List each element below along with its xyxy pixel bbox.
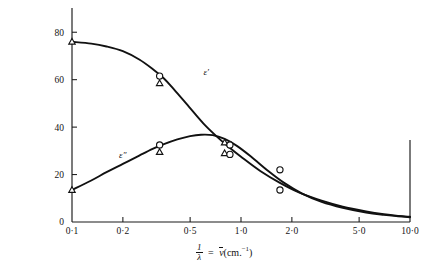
data-point-triangle: [156, 80, 162, 86]
x-tick-label: 1·0: [235, 226, 248, 236]
x-tick-label: 0·2: [117, 226, 130, 236]
curve-labels: ε′ε″: [119, 67, 210, 160]
y-tick-label: 0: [59, 217, 64, 227]
nu-glyph: ν: [219, 247, 223, 258]
y-tick-label: 40: [55, 123, 65, 133]
data-point-circle: [157, 142, 163, 148]
data-point-circle: [157, 73, 163, 79]
x-axis-ticks: 0·10·20·51·02·05·010·0: [66, 217, 419, 236]
data-point-triangle: [156, 149, 162, 155]
data-markers-epsilon-double-prime: [69, 142, 283, 193]
dielectric-dispersion-figure: 0·10·20·51·02·05·010·0 020406080 ε′ε″ 1 …: [0, 0, 439, 273]
nu-bar-symbol: ν: [219, 248, 223, 258]
curve-label-epsilon-prime: ε′: [204, 67, 211, 77]
x-tick-label: 10·0: [401, 226, 419, 236]
fraction-numerator: 1: [196, 243, 203, 252]
x-tick-label: 0·5: [184, 226, 197, 236]
x-tick-label: 5·0: [353, 226, 366, 236]
units-close: ): [249, 248, 252, 258]
curve-epsilon-double-prime: [72, 135, 410, 218]
x-tick-label: 2·0: [286, 226, 299, 236]
data-point-circle: [277, 187, 283, 193]
y-tick-label: 60: [55, 75, 65, 85]
curve-epsilon-prime: [72, 42, 410, 217]
data-point-triangle: [69, 187, 75, 193]
curve-label-epsilon-double-prime: ε″: [119, 150, 127, 160]
equals-sign: =: [208, 248, 214, 258]
overbar: [219, 247, 222, 248]
data-markers-epsilon-prime: [69, 38, 283, 172]
y-tick-label: 20: [55, 170, 65, 180]
x-tick-label: 0·1: [66, 226, 79, 236]
y-axis-ticks: 020406080: [55, 28, 78, 228]
units-exponent: −1: [242, 245, 249, 253]
data-point-triangle: [69, 38, 75, 44]
y-tick-label: 80: [55, 28, 65, 38]
one-over-lambda-fraction: 1 λ: [196, 243, 203, 262]
fraction-denominator: λ: [196, 252, 203, 262]
data-point-circle: [277, 167, 283, 173]
data-point-circle: [227, 142, 233, 148]
units-open: (cm.: [224, 248, 242, 258]
chart-canvas: 0·10·20·51·02·05·010·0 020406080 ε′ε″: [0, 0, 439, 273]
x-axis-caption: 1 λ = ν(cm.−1): [196, 243, 252, 262]
data-point-circle: [227, 151, 233, 157]
